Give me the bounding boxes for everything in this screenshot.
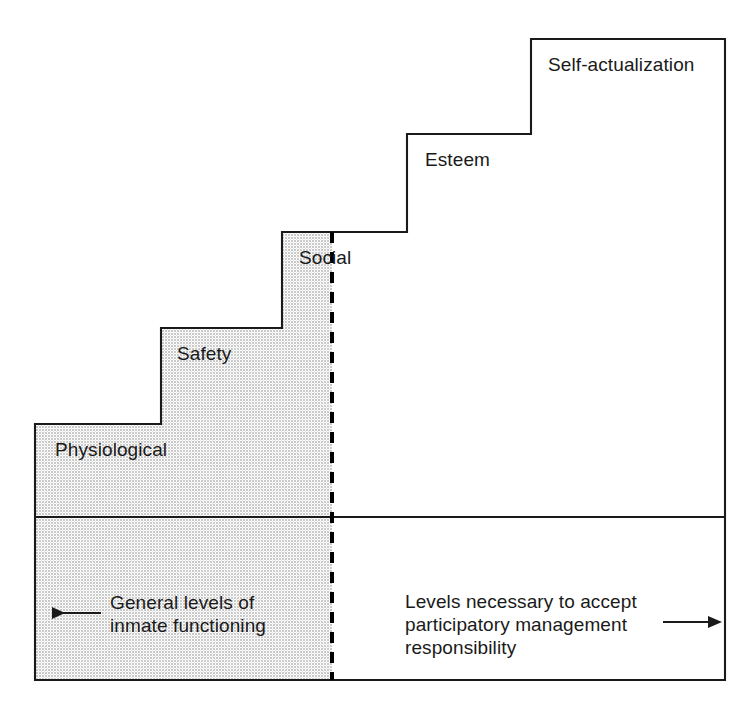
caption-participatory-management: Levels necessary to accept participatory…: [405, 590, 637, 659]
caption-inmate-functioning: General levels of inmate functioning: [110, 591, 266, 637]
step-label-social: Social: [299, 246, 351, 269]
step-label-self-actualization: Self-actualization: [548, 53, 695, 76]
figure-canvas: Physiological Safety Social Esteem Self-…: [0, 0, 756, 712]
step-label-physiological: Physiological: [55, 438, 167, 461]
step-label-esteem: Esteem: [425, 148, 490, 171]
step-label-safety: Safety: [177, 342, 231, 365]
